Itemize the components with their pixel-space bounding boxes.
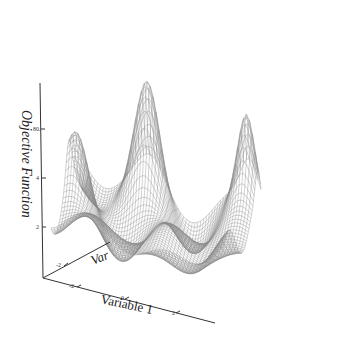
x-tick-minus2: -2	[69, 283, 74, 289]
mesh-line	[214, 120, 252, 256]
z-tick-2: 2	[36, 224, 39, 230]
mesh-line	[88, 146, 260, 227]
y-axis-label: Var	[89, 247, 112, 268]
surface-mesh	[51, 81, 261, 273]
x-tick-2: 2	[172, 310, 175, 316]
surface-plot: 80. 4 2 -2 -2 0 2 Objective Function Var…	[0, 0, 359, 341]
mesh-line	[51, 213, 223, 264]
y-tick-minus2: -2	[56, 262, 61, 268]
x-axis-label: Variable 1	[99, 291, 154, 317]
z-tick-4: 4	[36, 175, 39, 181]
z-axis-label: Objective Function	[19, 110, 34, 218]
mesh-line	[83, 86, 255, 251]
z-axis-line	[40, 83, 43, 278]
